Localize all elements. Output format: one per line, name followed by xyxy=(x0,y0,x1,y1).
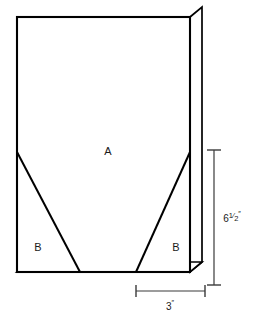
region-label-a: A xyxy=(104,145,112,157)
region-label-b-right: B xyxy=(172,241,179,253)
diagram-container: A B B 61⁄2″ 3″ xyxy=(0,0,254,333)
side-face-right xyxy=(190,7,202,272)
bag-pattern-diagram: A B B 61⁄2″ 3″ xyxy=(0,0,254,333)
region-label-b-left: B xyxy=(34,241,41,253)
